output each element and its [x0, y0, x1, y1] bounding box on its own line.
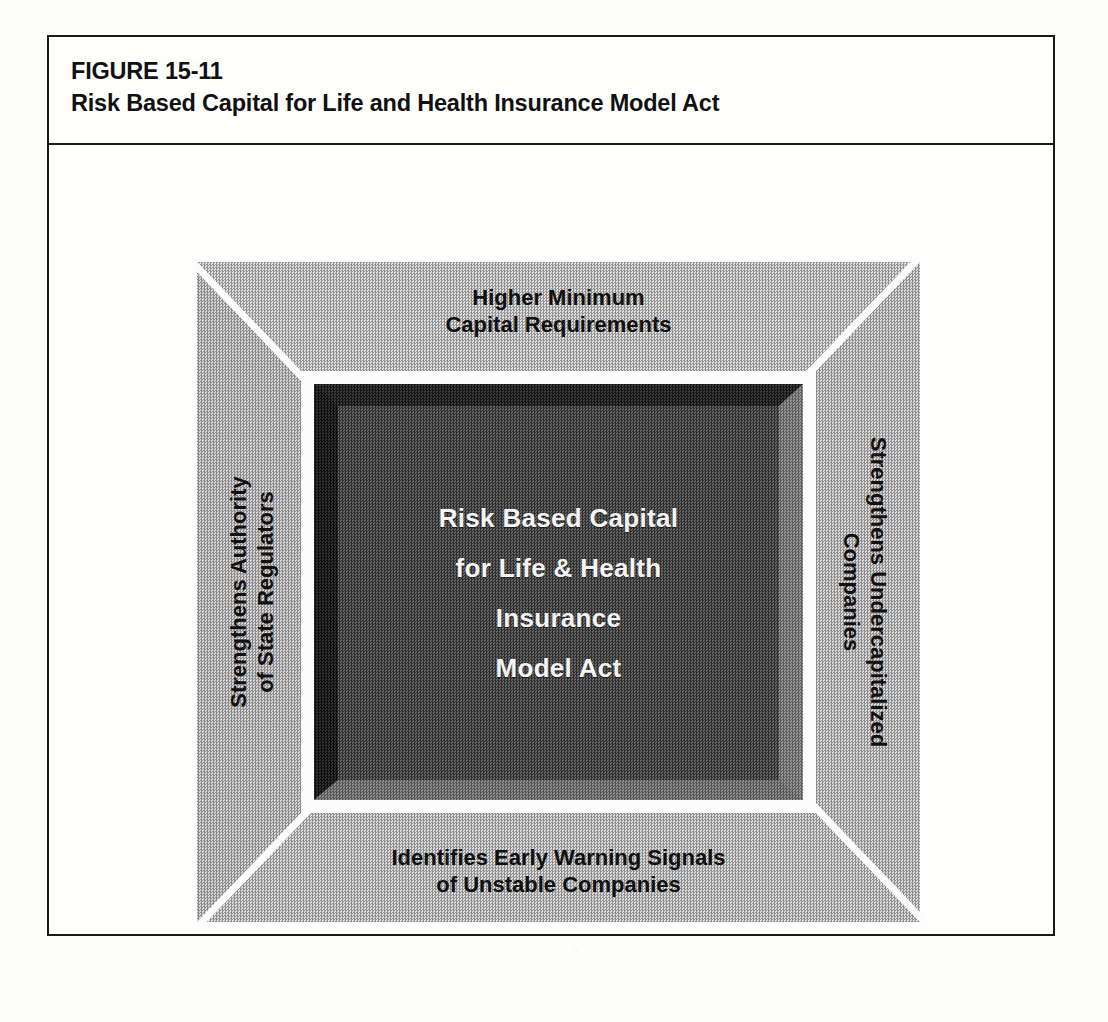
panel-label-top-line-1: Higher Minimum — [197, 284, 920, 311]
center-label: Risk Based Capital for Life & Health Ins… — [338, 406, 779, 780]
center-label-line-4: Model Act — [496, 644, 622, 692]
figure-number: FIGURE 15-11 — [71, 55, 1053, 87]
panel-label-left: Strengthens Authority of State Regulator… — [225, 377, 279, 807]
panel-label-left-line-2: of State Regulators — [252, 377, 279, 807]
figure-header: FIGURE 15-11 Risk Based Capital for Life… — [49, 37, 1053, 145]
panel-label-top: Higher Minimum Capital Requirements — [197, 284, 920, 338]
panel-label-right: Strengthens Undercapitalized Companies — [838, 377, 892, 807]
center-well: Risk Based Capital for Life & Health Ins… — [314, 384, 803, 800]
panel-label-bottom: Identifies Early Warning Signals of Unst… — [197, 844, 920, 898]
panel-label-top-line-2: Capital Requirements — [197, 311, 920, 338]
figure-box: FIGURE 15-11 Risk Based Capital for Life… — [47, 35, 1055, 936]
center-label-line-3: Insurance — [496, 594, 622, 642]
scanned-page: FIGURE 15-11 Risk Based Capital for Life… — [0, 0, 1108, 1022]
panel-label-bottom-line-2: of Unstable Companies — [197, 871, 920, 898]
panel-label-bottom-line-1: Identifies Early Warning Signals — [197, 844, 920, 871]
panel-label-right-line-1: Strengthens Undercapitalized — [865, 377, 892, 807]
diagram-canvas: Risk Based Capital for Life & Health Ins… — [49, 147, 1052, 933]
panel-label-left-line-1: Strengthens Authority — [225, 377, 252, 807]
center-label-line-1: Risk Based Capital — [439, 494, 679, 542]
perspective-frame: Risk Based Capital for Life & Health Ins… — [197, 262, 920, 922]
figure-caption: Risk Based Capital for Life and Health I… — [71, 87, 1053, 119]
center-label-line-2: for Life & Health — [456, 544, 662, 592]
panel-label-right-line-2: Companies — [838, 377, 865, 807]
